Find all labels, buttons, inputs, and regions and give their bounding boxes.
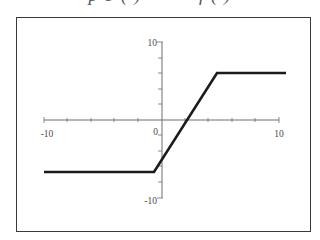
clipped-caption-text: p b ( ) f ( ) (0, 0, 320, 14)
plot-canvas: -10 0 10 10 -10 (17, 18, 310, 231)
y-tick-label-plus10: 10 (148, 38, 158, 48)
clipped-caption-strip: p b ( ) f ( ) (0, 0, 320, 15)
x-tick-label-plus10: 10 (274, 129, 284, 139)
y-tick-label-minus10: -10 (144, 196, 157, 206)
figure-frame: -10 0 10 10 -10 (16, 17, 311, 232)
x-tick-label-minus10: -10 (41, 129, 54, 139)
x-tick-label-zero: 0 (153, 127, 158, 137)
caption-fragment-left: p b ( ) (89, 0, 142, 5)
caption-fragment-right: f ( ) (199, 0, 231, 5)
saturation-curve (44, 73, 286, 172)
